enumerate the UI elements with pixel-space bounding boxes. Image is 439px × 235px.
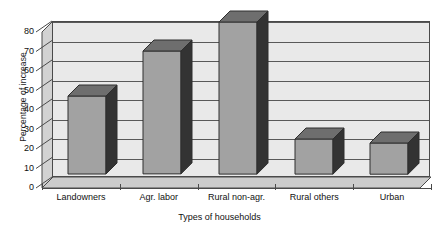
bar — [295, 141, 333, 176]
y-axis-tick-mark — [36, 60, 52, 71]
bar — [143, 53, 181, 176]
bar-3d-body — [143, 40, 194, 176]
y-axis-tick-mark — [36, 177, 52, 188]
y-axis-tick-label: 30 — [12, 125, 34, 134]
x-axis-category-label: Urban — [353, 192, 431, 202]
bar-front-face — [143, 51, 181, 174]
bar-front-face — [219, 22, 257, 174]
y-axis-tick-mark — [36, 158, 52, 169]
x-axis-tick-mark — [431, 184, 432, 190]
bar-3d-body — [295, 128, 346, 176]
bar-side-face — [257, 11, 268, 174]
y-axis-tick-label: 50 — [12, 86, 34, 95]
x-axis-tick-mark — [198, 184, 199, 190]
bar-front-face — [68, 96, 106, 174]
bar-3d-body — [68, 85, 119, 176]
x-axis-tick-mark — [275, 184, 276, 190]
bar — [370, 145, 408, 176]
y-axis-tick-mark — [36, 21, 52, 32]
bar — [219, 24, 257, 176]
x-axis-title: Types of households — [0, 212, 439, 222]
bar-front-face — [370, 143, 408, 174]
floor-panel — [42, 177, 431, 188]
x-axis-tick-mark — [353, 184, 354, 190]
x-axis-category-label: Agr. labor — [120, 192, 198, 202]
bar-chart-figure: Percentage of increase 01020304050607080… — [0, 0, 439, 235]
bar-side-face — [106, 85, 117, 174]
y-axis-tick-label: 70 — [12, 47, 34, 56]
y-axis-tick-mark — [36, 99, 52, 110]
bar-side-face — [181, 40, 192, 174]
y-axis-title: Percentage of increase — [18, 12, 28, 182]
y-axis-tick-mark — [36, 119, 52, 130]
plot-area — [52, 21, 430, 177]
bar-3d-body — [219, 11, 270, 176]
x-axis-tick-mark — [120, 184, 121, 190]
bar-front-face — [295, 139, 333, 174]
bar — [68, 98, 106, 176]
y-axis-tick-label: 60 — [12, 66, 34, 75]
y-axis-tick-label: 40 — [12, 105, 34, 114]
y-axis-tick-label: 80 — [12, 27, 34, 36]
y-axis-tick-label: 0 — [12, 183, 34, 192]
x-axis-tick-mark — [42, 184, 43, 190]
y-axis-tick-label: 20 — [12, 144, 34, 153]
y-axis-tick-mark — [36, 80, 52, 91]
x-axis-category-label: Rural others — [275, 192, 353, 202]
x-axis-category-label: Landowners — [42, 192, 120, 202]
x-axis-line — [42, 188, 431, 189]
y-axis-tick-mark — [36, 138, 52, 149]
y-axis-tick-mark — [36, 41, 52, 52]
bar-3d-body — [370, 132, 421, 176]
y-axis-tick-label: 10 — [12, 164, 34, 173]
x-axis-category-label: Rural non-agr. — [198, 192, 276, 202]
